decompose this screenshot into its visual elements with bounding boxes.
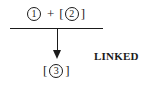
top-expression: 1 + [ 2 ] — [27, 6, 85, 22]
circled-number-3: 3 — [49, 64, 63, 78]
bracket-close: ] — [65, 63, 69, 79]
arrow-label: LINKED — [94, 50, 139, 62]
bracket-open: [ — [43, 63, 47, 79]
plus-operator: + — [47, 6, 54, 22]
circled-number-1: 1 — [27, 7, 41, 21]
arrow-down-icon — [53, 50, 61, 59]
bracket-open: [ — [59, 6, 63, 22]
circled-number-2: 2 — [65, 7, 79, 21]
result-expression: [ 3 ] — [43, 63, 70, 79]
bracket-close: ] — [81, 6, 85, 22]
arrow-shaft — [57, 29, 58, 51]
